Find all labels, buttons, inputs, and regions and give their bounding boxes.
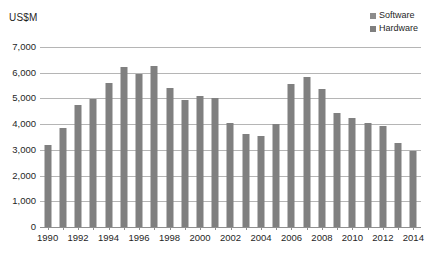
x-tick-label: 2000 [189, 232, 210, 243]
legend-entry-software[interactable]: Software [370, 10, 415, 21]
bar-2006[interactable] [288, 84, 295, 227]
legend-label: Hardware [379, 23, 418, 34]
bar-slot [314, 47, 329, 227]
x-tick-mark [48, 227, 49, 230]
x-axis: 1990199219941996199820002002200420062008… [40, 227, 421, 257]
plot-area [40, 47, 421, 227]
x-tick-mark [78, 227, 79, 230]
bar-slot [86, 47, 101, 227]
bar-slot [131, 47, 146, 227]
bar-1996[interactable] [136, 74, 143, 227]
bar-slot [253, 47, 268, 227]
bar-1998[interactable] [166, 88, 173, 227]
bar-2001[interactable] [212, 98, 219, 227]
x-tick-label: 2004 [250, 232, 271, 243]
x-tick-mark [322, 227, 323, 230]
x-tick-mark [109, 227, 110, 230]
x-tick-mark [352, 227, 353, 230]
bar-2013[interactable] [395, 143, 402, 227]
y-tick-label: 6,000 [0, 68, 36, 78]
bar-1995[interactable] [120, 67, 127, 227]
x-tick-mark [231, 227, 232, 230]
bar-slot [208, 47, 223, 227]
y-tick-label: 5,000 [0, 94, 36, 104]
bar-2008[interactable] [318, 89, 325, 227]
bar-series-group [40, 47, 421, 227]
y-tick-label: 3,000 [0, 145, 36, 155]
x-tick-mark [93, 227, 94, 230]
bar-2000[interactable] [197, 96, 204, 227]
x-tick-mark [124, 227, 125, 230]
x-tick-mark [139, 227, 140, 230]
x-tick-label: 2010 [342, 232, 363, 243]
bar-1994[interactable] [105, 83, 112, 227]
x-tick-mark [413, 227, 414, 230]
x-tick-label: 1996 [128, 232, 149, 243]
bar-slot [269, 47, 284, 227]
x-tick-mark [154, 227, 155, 230]
bar-slot [375, 47, 390, 227]
bar-slot [345, 47, 360, 227]
bar-slot [223, 47, 238, 227]
bar-slot [40, 47, 55, 227]
x-tick-mark [185, 227, 186, 230]
square-swatch-icon [370, 13, 376, 19]
x-tick-mark [276, 227, 277, 230]
bar-2002[interactable] [227, 123, 234, 227]
x-tick-mark [383, 227, 384, 230]
bar-1992[interactable] [75, 105, 82, 227]
bar-2005[interactable] [273, 124, 280, 227]
bar-slot [162, 47, 177, 227]
bar-1990[interactable] [44, 145, 51, 227]
bar-slot [406, 47, 421, 227]
bar-2007[interactable] [303, 77, 310, 227]
bar-slot [70, 47, 85, 227]
x-tick-mark [170, 227, 171, 230]
bar-slot [238, 47, 253, 227]
x-tick-label: 2012 [372, 232, 393, 243]
bar-slot [391, 47, 406, 227]
bar-1999[interactable] [181, 100, 188, 227]
bar-2012[interactable] [379, 126, 386, 227]
bar-2010[interactable] [349, 118, 356, 227]
y-axis-unit-label: US$M [9, 12, 38, 23]
x-tick-label: 2014 [403, 232, 424, 243]
bar-2003[interactable] [242, 134, 249, 227]
x-tick-mark [398, 227, 399, 230]
x-tick-label: 2008 [311, 232, 332, 243]
bar-slot [55, 47, 70, 227]
x-tick-mark [337, 227, 338, 230]
bar-1997[interactable] [151, 66, 158, 227]
x-tick-mark [261, 227, 262, 230]
legend-label: Software [379, 10, 415, 21]
y-tick-label: 1,000 [0, 197, 36, 207]
bar-slot [147, 47, 162, 227]
bar-1993[interactable] [90, 99, 97, 227]
x-tick-mark [200, 227, 201, 230]
y-tick-label: 2,000 [0, 171, 36, 181]
bar-2011[interactable] [364, 123, 371, 227]
bar-1991[interactable] [59, 128, 66, 228]
x-tick-label: 1990 [37, 232, 58, 243]
bar-2004[interactable] [257, 136, 264, 227]
x-tick-mark [291, 227, 292, 230]
y-axis-tick-labels: 01,0002,0003,0004,0005,0006,0007,000 [0, 47, 36, 227]
y-tick-label: 4,000 [0, 119, 36, 129]
bar-slot [101, 47, 116, 227]
y-tick-label: 0 [0, 222, 36, 232]
bar-2009[interactable] [334, 113, 341, 227]
legend-entry-hardware[interactable]: Hardware [370, 23, 418, 34]
bar-chart: US$M SoftwareHardware 01,0002,0003,0004,… [0, 0, 426, 257]
x-tick-label: 1998 [159, 232, 180, 243]
bar-2014[interactable] [410, 151, 417, 227]
bar-slot [360, 47, 375, 227]
x-tick-label: 1992 [68, 232, 89, 243]
bar-slot [284, 47, 299, 227]
x-tick-mark [307, 227, 308, 230]
bar-slot [177, 47, 192, 227]
x-tick-label: 1994 [98, 232, 119, 243]
bar-slot [116, 47, 131, 227]
x-tick-mark [246, 227, 247, 230]
y-tick-label: 7,000 [0, 42, 36, 52]
x-tick-mark [63, 227, 64, 230]
